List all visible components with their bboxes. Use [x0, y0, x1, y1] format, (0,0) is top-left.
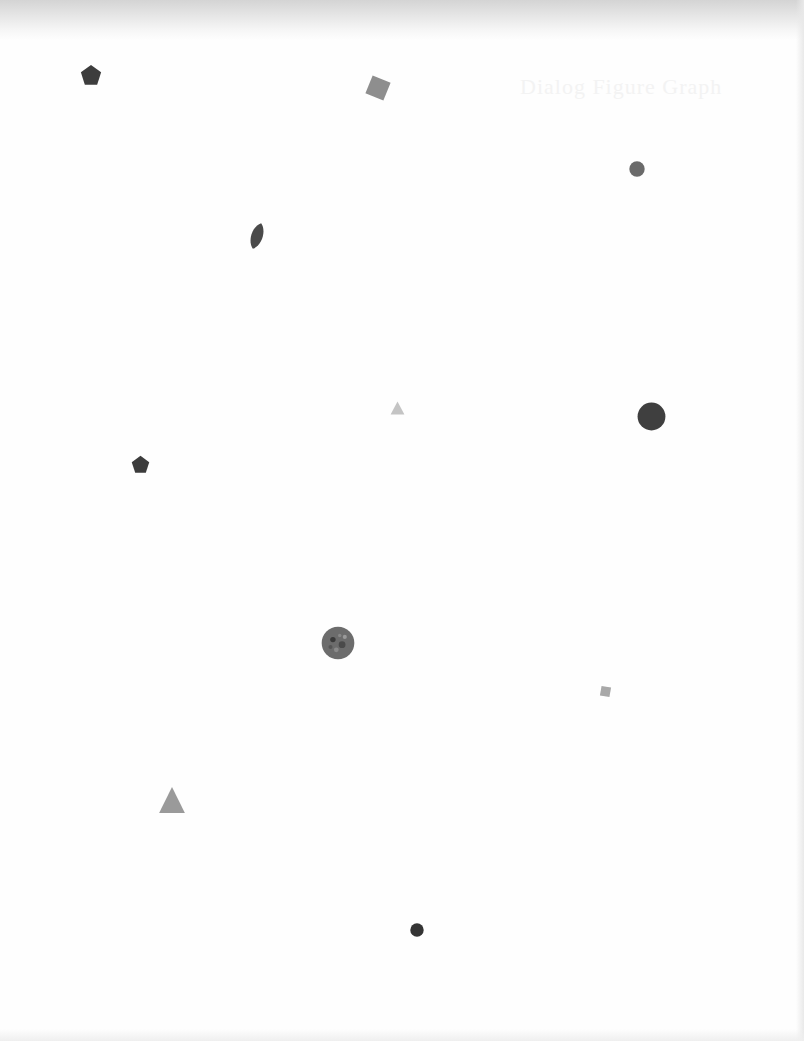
leaf-icon: [243, 220, 271, 253]
circle-icon: [321, 626, 355, 660]
pentagon-icon: [80, 64, 102, 86]
circle-icon: [629, 161, 645, 177]
scan-shadow-bottom: [0, 1029, 804, 1041]
scanned-page: Dialog Figure Graph: [0, 0, 804, 1041]
square-icon: [364, 74, 393, 103]
circle-icon: [410, 923, 424, 937]
pentagon-icon: [131, 455, 150, 474]
scan-shadow-right: [796, 0, 804, 1041]
triangle-icon: [390, 401, 405, 415]
bleed-through-text: Dialog Figure Graph: [520, 74, 722, 100]
square-icon: [599, 685, 612, 698]
circle-icon: [637, 402, 666, 431]
scan-shadow-top: [0, 0, 804, 40]
triangle-icon: [158, 786, 186, 814]
